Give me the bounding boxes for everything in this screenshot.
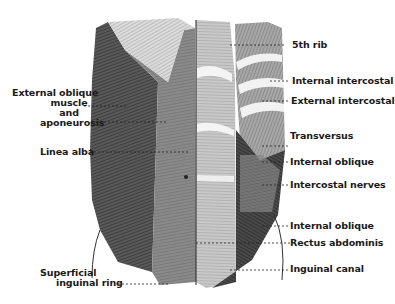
label-inguinal-canal: Inguinal canal bbox=[290, 264, 364, 274]
label-intercostal-nerves: Intercostal nerves bbox=[290, 180, 386, 190]
label-transversus: Transversus bbox=[290, 131, 353, 141]
label-linea-alba: Linea alba bbox=[40, 147, 94, 157]
label-external-oblique: External oblique muscle and aponeurosis bbox=[12, 88, 98, 128]
label-line: aponeurosis bbox=[40, 118, 98, 128]
label-external-intercostal: External intercostal bbox=[291, 96, 395, 106]
label-internal-intercostal: Internal intercostal bbox=[292, 76, 393, 86]
label-superficial-inguinal-ring: Superficial inguinal ring bbox=[40, 268, 123, 288]
label-internal-oblique-upper: Internal oblique bbox=[290, 157, 374, 167]
label-5th-rib: 5th rib bbox=[292, 40, 327, 50]
label-internal-oblique-lower: Internal oblique bbox=[290, 221, 374, 231]
label-line: inguinal ring bbox=[56, 278, 123, 288]
label-rectus-abdominis: Rectus abdominis bbox=[290, 238, 383, 248]
